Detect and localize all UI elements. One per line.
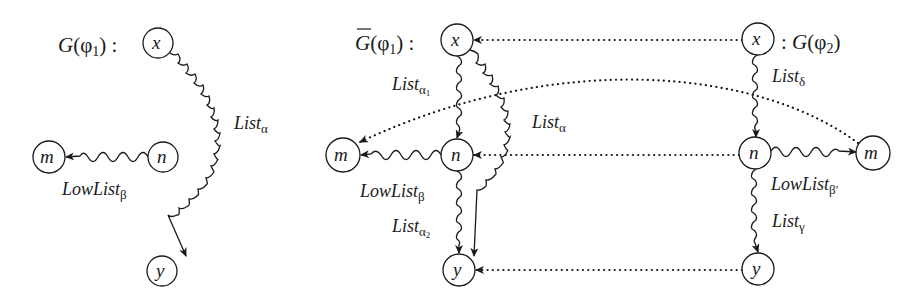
svg-text:m: m xyxy=(334,144,348,165)
edge-left-n-m-wavy xyxy=(66,153,148,162)
node-left-m: m xyxy=(33,141,65,173)
edge-left-n-m-label: LowListβ xyxy=(61,179,127,202)
graph-middle: G(φ1) : Listα1 Listα LowListβ Listα2 x m… xyxy=(326,24,566,286)
graph-right: : G(φ2) Listδ LowListβ′ Listγ x n m y xyxy=(739,23,890,285)
node-middle-x: x xyxy=(441,24,473,56)
edge-middle-x-y-wavy xyxy=(470,50,510,256)
edge-middle-n-m-label: LowListβ xyxy=(359,181,425,204)
node-middle-y: y xyxy=(443,254,475,286)
edge-middle-n-m-wavy xyxy=(361,151,441,160)
node-middle-n: n xyxy=(441,139,473,171)
svg-text:n: n xyxy=(749,142,759,163)
edge-left-x-y-label: Listα xyxy=(233,113,268,136)
mapping-m xyxy=(360,80,858,143)
node-right-m: m xyxy=(856,136,890,170)
edge-middle-x-n-wavy xyxy=(457,56,462,138)
svg-text:m: m xyxy=(864,142,878,163)
graph-left-title: G(φ1) : xyxy=(58,33,117,59)
svg-text:m: m xyxy=(40,146,54,167)
graph-left: G(φ1) : Listα LowListβ x m n y xyxy=(33,28,268,286)
svg-text:y: y xyxy=(451,259,462,280)
svg-text:y: y xyxy=(154,260,165,281)
node-right-x: x xyxy=(742,23,774,55)
graph-middle-title: G(φ1) : xyxy=(355,31,414,57)
edge-right-x-n-label: Listδ xyxy=(771,66,805,89)
edge-middle-n-y-label: Listα2 xyxy=(391,216,430,240)
svg-text:n: n xyxy=(157,146,167,167)
node-right-n: n xyxy=(739,137,771,169)
edge-right-n-y-label: Listγ xyxy=(771,211,805,234)
graph-right-title: : G(φ2) xyxy=(781,30,840,56)
edge-right-n-m-wavy xyxy=(771,147,856,156)
svg-text:x: x xyxy=(450,29,460,50)
svg-text:x: x xyxy=(751,28,761,49)
svg-text:n: n xyxy=(451,144,461,165)
edge-middle-x-y-label: Listα xyxy=(531,112,566,135)
svg-text:y: y xyxy=(750,258,761,279)
graph-mapping-diagram: G(φ1) : Listα LowListβ x m n y G(φ1) : L… xyxy=(0,0,923,308)
node-left-n: n xyxy=(148,142,178,172)
node-left-y: y xyxy=(147,256,177,286)
node-right-y: y xyxy=(742,253,774,285)
edge-right-n-y-wavy xyxy=(752,169,759,252)
edge-middle-n-y-wavy xyxy=(457,171,462,253)
node-left-x: x xyxy=(143,28,173,58)
edge-right-n-m-label: LowListβ′ xyxy=(770,174,839,197)
edge-middle-x-n-label: Listα1 xyxy=(391,74,430,98)
svg-text:x: x xyxy=(151,32,161,53)
node-middle-m: m xyxy=(326,138,360,172)
